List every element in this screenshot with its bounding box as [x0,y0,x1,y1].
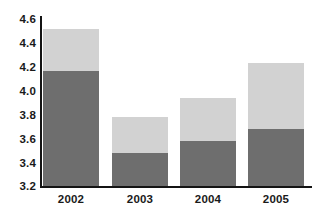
bar-2002-upper-segment [43,29,99,72]
y-tick-label-4-2: 4.2 [2,62,36,74]
bar-2003-lower-segment [112,153,168,186]
bar-2003-upper-segment [112,117,168,153]
bar-2002 [43,29,99,186]
x-tick-label-2002: 2002 [41,194,101,206]
bar-2005 [248,63,304,186]
x-tick-label-2003: 2003 [110,194,170,206]
bar-2004 [180,98,236,186]
bar-2004-upper-segment [180,98,236,141]
y-axis-line [40,16,42,188]
bar-2005-lower-segment [248,129,304,186]
x-tick-label-2005: 2005 [246,194,306,206]
bar-2004-lower-segment [180,141,236,186]
y-tick-label-4-4: 4.4 [2,38,36,50]
x-tick-label-2004: 2004 [178,194,238,206]
y-tick-label-3-6: 3.6 [2,134,36,146]
bar-2005-upper-segment [248,63,304,129]
bar-2002-lower-segment [43,71,99,186]
y-tick-label-3-8: 3.8 [2,110,36,122]
y-tick-label-3-4: 3.4 [2,158,36,170]
stacked-bar-chart: 4.6 4.4 4.2 4.0 3.8 3.6 3.4 3.2 2002 200… [0,0,322,214]
x-axis-line [40,186,312,188]
bar-2003 [112,117,168,186]
y-tick-label-4-0: 4.0 [2,86,36,98]
y-tick-label-4-6: 4.6 [2,14,36,26]
y-tick-label-3-2: 3.2 [2,181,36,193]
